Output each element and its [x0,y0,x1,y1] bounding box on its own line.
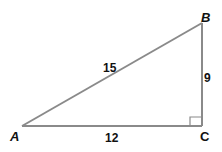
vertex-label-a: A [9,129,19,144]
triangle-diagram: A B C 15 12 9 [0,0,222,152]
side-label-ab: 15 [103,61,117,75]
side-label-ac: 12 [105,131,119,145]
vertex-label-c: C [200,129,210,144]
side-label-bc: 9 [204,71,211,85]
right-angle-marker [190,117,202,126]
vertex-label-b: B [201,10,210,25]
